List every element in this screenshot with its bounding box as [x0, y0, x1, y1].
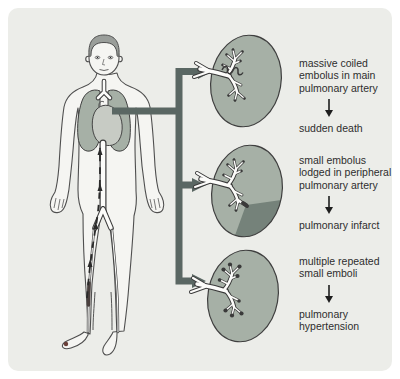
outcome-block-1: massive coiled embolus in main pulmonary…: [299, 57, 397, 134]
down-arrow-icon: [323, 99, 335, 117]
outcome-block-2: small embolus lodged in peripheral pulmo…: [299, 154, 397, 231]
down-arrow-icon: [323, 285, 335, 303]
cause-label: multiple repeated small emboli: [299, 255, 397, 280]
outcome-block-3: multiple repeated small emboli pulmonary…: [299, 255, 397, 332]
foot-thrombus-dot: [64, 342, 68, 346]
lung-illustration-1: [194, 30, 288, 133]
peripheral-embolus: [243, 203, 247, 206]
leg-thrombus: [89, 283, 90, 305]
pulmonary-embolism-diagram: massive coiled embolus in main pulmonary…: [0, 0, 400, 379]
lung-illustration-2: [195, 140, 292, 243]
result-label: pulmonary infarct: [299, 219, 397, 231]
down-arrow-icon: [323, 196, 335, 214]
human-figure: [50, 35, 164, 355]
cause-label: massive coiled embolus in main pulmonary…: [299, 57, 397, 94]
result-label: sudden death: [299, 122, 397, 134]
result-label: pulmonary hypertension: [299, 308, 397, 333]
lung-illustration-3: [191, 245, 285, 348]
cause-label: small embolus lodged in peripheral pulmo…: [299, 154, 397, 191]
